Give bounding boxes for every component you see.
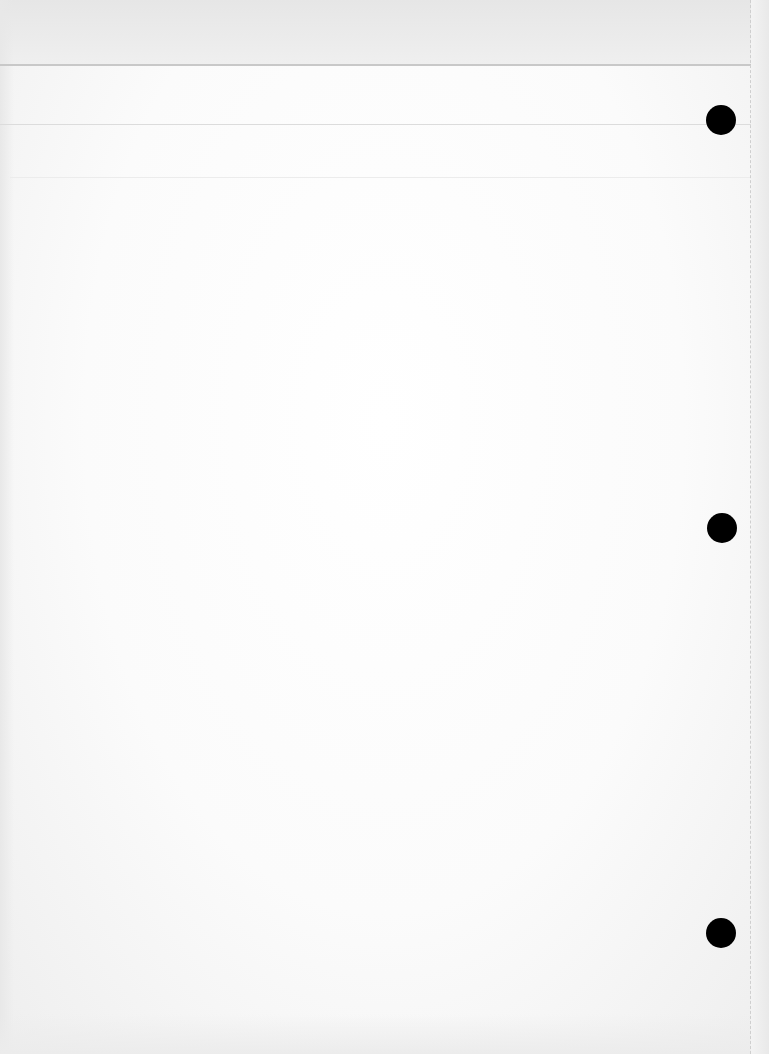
left-edge-shadow — [0, 0, 14, 1054]
rule-line-2 — [0, 124, 769, 125]
punch-hole-1 — [706, 105, 736, 135]
top-strip — [0, 0, 769, 64]
right-margin-strip — [751, 0, 769, 1054]
bottom-edge-shadow — [0, 1014, 769, 1054]
rule-line-1 — [0, 64, 769, 66]
punch-hole-3 — [706, 918, 736, 948]
punch-hole-2 — [707, 513, 737, 543]
rule-line-3 — [10, 177, 750, 178]
perforation-line — [750, 0, 751, 1054]
scanned-page — [0, 0, 769, 1054]
